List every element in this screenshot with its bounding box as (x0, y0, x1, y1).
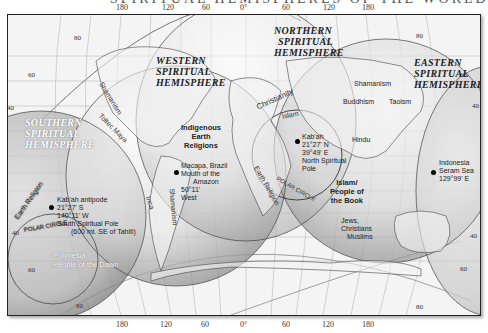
hindu-label: Hindu (352, 136, 370, 144)
lat-label-60s-east: 60 (460, 265, 467, 273)
tick-bottom-180e: 180 (362, 320, 374, 329)
northern-spiritual-hemisphere-label: Northern Spiritual Hemisphere (274, 25, 344, 58)
taoism-label: Taoism (389, 98, 411, 106)
map-frame: 80 60 40 80 60 40 40 60 80 40 60 80 West… (7, 14, 481, 316)
islam-people-of-the-book-label: Islam/ People of the Book (330, 178, 364, 205)
polynesia-label: Polynesia (53, 252, 86, 260)
macapa-marker (174, 170, 179, 175)
world-map-graphic (8, 15, 480, 315)
south-spiritual-pole-marker (49, 205, 54, 210)
lat-label-60n-west: 60 (28, 71, 35, 79)
lat-label-80n-east: 80 (416, 32, 423, 40)
tick-bottom-60w: 60 (201, 320, 209, 329)
indonesia-marker (431, 170, 436, 175)
tick-bottom-120w: 120 (160, 320, 172, 329)
indigenous-earth-religions-label: Indigenous Earth Religions (181, 123, 221, 150)
lat-label-40s-east: 40 (470, 232, 477, 240)
shamanism-asia-label: Shamanism (354, 80, 391, 88)
lat-label-80s-east: 80 (416, 303, 423, 311)
muslims-label: Muslims (347, 233, 373, 241)
people-of-the-dawn-label: People of the Dawn (53, 261, 118, 269)
lat-label-40s-west: 40 (12, 229, 19, 237)
tick-top-120w: 120 (162, 3, 174, 12)
tick-top-0: 0° (240, 3, 247, 12)
kabah-antipode-label: Kab'ah antipode 21°27' S 140°11' W South… (57, 196, 136, 236)
western-spiritual-hemisphere-label: Western Spiritual Hemisphere (156, 55, 226, 88)
lat-label-80n-west: 80 (74, 34, 81, 42)
tick-top-60e: 60 (282, 3, 290, 12)
tick-top-180e: 180 (362, 3, 374, 12)
southern-spiritual-hemisphere-label: Southern Spiritual Hemisphere (25, 117, 95, 150)
tick-top-60w: 60 (202, 3, 210, 12)
kabah-label: Kab'ah 21°27' N 39°49' E North Spiritual… (302, 133, 346, 173)
tick-bottom-0: 0° (240, 320, 247, 329)
indonesia-label: Indonesia Seram Sea 129°99' E (439, 159, 474, 183)
christians-label: Christians (341, 225, 372, 233)
macapa-label: Macapa, Brazil Mouth of the Amazon 50°11… (181, 162, 227, 202)
buddhism-label: Buddhism (343, 98, 374, 106)
tick-bottom-120e: 120 (322, 320, 334, 329)
tick-top-180w: 180 (116, 3, 128, 12)
lat-label-40n-east: 40 (472, 102, 479, 110)
tick-bottom-60e: 60 (282, 320, 290, 329)
eastern-spiritual-hemisphere-label: Eastern Spiritual Hemisphere (414, 57, 481, 90)
tick-bottom-180w: 180 (116, 320, 128, 329)
lat-label-80s-west: 80 (76, 302, 83, 310)
tick-top-120e: 120 (323, 3, 335, 12)
jews-label: Jews, (341, 217, 359, 225)
lat-label-40n-west: 40 (7, 104, 14, 112)
north-spiritual-pole-marker (295, 139, 300, 144)
lat-label-60s-west: 60 (28, 266, 35, 274)
